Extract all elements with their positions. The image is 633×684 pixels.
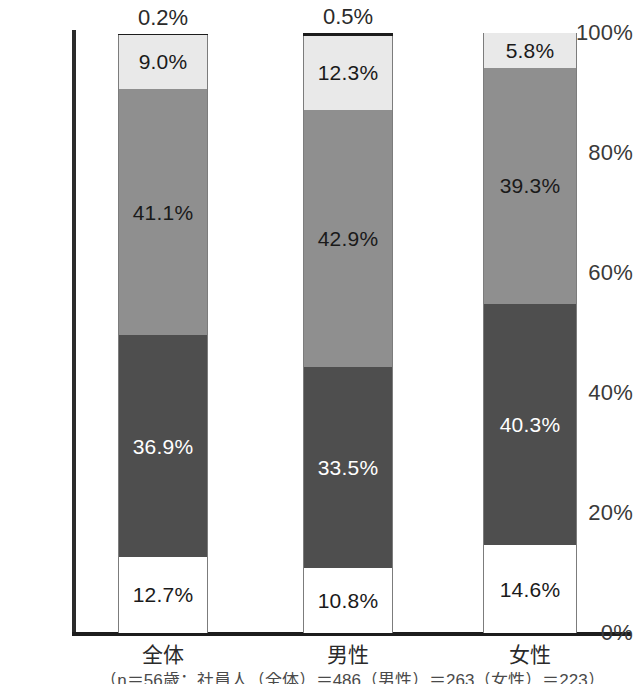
bar-segment: 12.3% [303,36,393,110]
segment-value-label: 33.5% [318,457,379,478]
segment-value-label: 9.0% [139,51,188,72]
bar-女性: 5.8%39.3%40.3%14.6% [483,33,577,633]
bar-男性: 12.3%42.9%33.5%10.8% [303,33,393,633]
segment-value-label: 41.1% [133,202,194,223]
bar-segment: 41.1% [118,89,208,336]
segment-value-label: 39.3% [500,175,561,196]
bar-segment: 12.7% [118,557,208,633]
segment-value-label: 42.9% [318,228,379,249]
segment-value-label: 14.6% [500,579,561,600]
category-label-女性: 女性 [483,644,577,665]
y-axis-line [72,30,76,636]
category-label-男性: 男性 [303,644,393,665]
bar-segment: 33.5% [303,367,393,568]
segment-value-label: 12.7% [133,584,194,605]
bar-segment: 42.9% [303,110,393,367]
bar-segment: 39.3% [483,68,577,304]
bar-segment: 40.3% [483,304,577,546]
bar-segment: 5.8% [483,33,577,68]
stacked-bar-chart: 100%80%60%40%20%0% 9.0%41.1%36.9%12.7%0.… [0,0,633,684]
segment-value-label-outside: 0.2% [118,7,208,29]
bar-segment: 10.8% [303,568,393,633]
bar-全体: 9.0%41.1%36.9%12.7% [118,34,208,633]
segment-value-label: 40.3% [500,414,561,435]
segment-value-label-outside: 0.5% [303,6,393,28]
segment-value-label: 10.8% [318,590,379,611]
segment-value-label: 12.3% [318,62,379,83]
bar-segment: 9.0% [118,35,208,89]
footnote-text: （n＝56歳：社員人（全体）＝486（男性）＝263（女性）＝223） [72,672,633,684]
bar-segment: 14.6% [483,545,577,633]
bar-segment: 36.9% [118,335,208,556]
segment-value-label: 36.9% [133,436,194,457]
segment-value-label: 5.8% [506,40,555,61]
category-label-全体: 全体 [118,644,208,665]
